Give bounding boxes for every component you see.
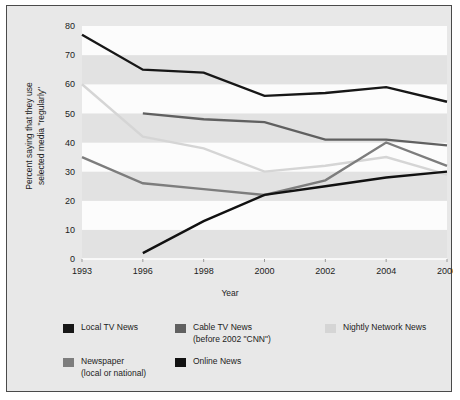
grid-band	[82, 230, 447, 259]
y-tick-label: 80	[65, 21, 75, 31]
x-tick-label: 1993	[72, 266, 92, 276]
y-axis-title: Percent saying that they use selected me…	[23, 41, 47, 231]
line-chart: 0102030405060708019931996199820002002200…	[7, 6, 453, 306]
legend-row: Newspaper (local or national)Online News	[7, 356, 453, 379]
grid-band	[82, 26, 447, 55]
y-tick-label: 70	[65, 50, 75, 60]
legend-item: Newspaper (local or national)	[7, 356, 175, 379]
legend-item: Online News	[175, 356, 325, 379]
x-tick-label: 2006	[437, 266, 453, 276]
x-tick-label: 2000	[254, 266, 274, 276]
y-tick-label: 30	[65, 167, 75, 177]
y-tick-label: 20	[65, 196, 75, 206]
legend-row: Local TV NewsCable TV News (before 2002 …	[7, 322, 453, 345]
plot-area: 0102030405060708019931996199820002002200…	[7, 6, 453, 306]
x-tick-label: 1996	[133, 266, 153, 276]
y-tick-label: 40	[65, 138, 75, 148]
legend-item: Local TV News	[7, 322, 175, 345]
legend-label: Newspaper (local or national)	[81, 356, 146, 379]
legend-swatch	[175, 358, 186, 367]
chart-legend: Local TV NewsCable TV News (before 2002 …	[7, 318, 453, 388]
x-tick-label: 1998	[194, 266, 214, 276]
grid-band	[82, 113, 447, 142]
grid-band	[82, 201, 447, 230]
legend-label: Nightly Network News	[343, 322, 426, 334]
grid-band	[82, 55, 447, 84]
x-tick-label: 2002	[315, 266, 335, 276]
legend-label: Local TV News	[81, 322, 138, 334]
grid-band	[82, 143, 447, 172]
y-tick-label: 50	[65, 109, 75, 119]
legend-swatch	[63, 358, 74, 367]
legend-item: Cable TV News (before 2002 "CNN")	[175, 322, 325, 345]
y-tick-label: 60	[65, 79, 75, 89]
legend-label: Cable TV News (before 2002 "CNN")	[193, 322, 271, 345]
y-tick-label: 10	[65, 225, 75, 235]
legend-label: Online News	[193, 356, 241, 368]
legend-swatch	[325, 324, 336, 333]
legend-swatch	[175, 324, 186, 333]
x-tick-label: 2004	[376, 266, 396, 276]
legend-item: Nightly Network News	[325, 322, 453, 345]
chart-figure: 0102030405060708019931996199820002002200…	[6, 5, 452, 392]
legend-swatch	[63, 324, 74, 333]
y-tick-label: 0	[70, 254, 75, 264]
x-axis-title: Year	[7, 288, 453, 298]
